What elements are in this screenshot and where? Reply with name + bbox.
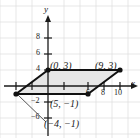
x-tick-label-10: 10 — [114, 88, 122, 97]
y-tick-label-8: 8 — [36, 32, 40, 41]
x-axis-label: x — [131, 78, 135, 88]
y-tick-label-minus-6: −6 — [31, 112, 40, 121]
y-tick-label-6: 6 — [36, 48, 40, 57]
vertex-dot-m4-m1 — [13, 91, 18, 96]
x-tick-label-8: 8 — [101, 88, 105, 97]
coordinate-plane-figure: y x 8 6 4 −2 −6 6 8 10 (0, 3) (9, 3) (5,… — [0, 0, 140, 138]
point-label-0-3: (0, 3) — [50, 60, 72, 71]
y-tick-label-4: 4 — [36, 64, 40, 73]
vertex-dot-9-3 — [117, 67, 122, 72]
point-label-5-minus-1: (5, −1) — [50, 98, 78, 109]
point-label-9-3: (9, 3) — [95, 60, 117, 71]
y-tick-label-minus-2: −2 — [31, 96, 40, 105]
x-tick-label-6: 6 — [86, 88, 90, 97]
point-label-minus-4-minus-1: (−4, −1) — [44, 118, 79, 129]
y-axis-label: y — [44, 4, 48, 14]
